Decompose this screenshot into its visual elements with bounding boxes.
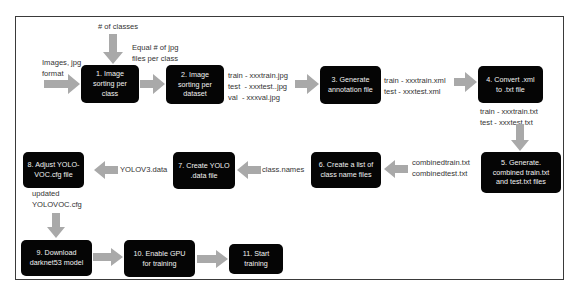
arrow-images-to-step1 [44,74,80,94]
step-5-box: 5. Generate. combined train.txt and test… [481,152,561,193]
step6-output-label: class.names [262,164,304,175]
arrow-classes-to-step1 [103,34,123,64]
arrow-step6-to-step7 [237,161,261,179]
step4-output-label: train - xxxtrain.txt test - xxxtest.txt [480,106,538,128]
arrow-step1-to-step2 [140,74,165,94]
step8-output-label: updated YOLOVOC.cfg [32,188,82,210]
step-10-box: 10. Enable GPU for training [124,240,195,277]
step2-output-label: train - xxxtrain.jpg test - xxxtest..jpg… [228,70,288,103]
arrow-step8-to-step9 [47,213,65,238]
step-9-box: 9. Download darknet53 model [21,240,92,276]
arrow-step3-to-step4 [454,72,477,92]
step-7-box: 7. Create YOLO .data file [173,152,235,189]
step-1-box: 1. Image sorting per class [81,65,139,103]
arrow-step2-to-step3 [295,74,319,94]
classes-input-label: # of classes [98,21,138,32]
step-11-box: 11. Start training [229,244,283,274]
step-2-box: 2. Image sorting per dataset [166,65,224,104]
step1-output-label: Equal # of jpg files per class [132,42,178,64]
step-6-box: 6. Create a list of class name files [311,152,381,188]
step7-output-label: YOLOV3.data [120,164,167,175]
arrow-step4-to-step5 [511,124,529,151]
arrow-step9-to-step10 [93,248,123,266]
step-4-box: 4. Convert .xml to .txt file [478,66,543,103]
step5-output-label: combinedtrain.txt combinedtest.txt [412,157,470,179]
arrow-step10-to-step11 [197,250,228,268]
step-8-box: 8. Adjust YOLO- VOC.cfg file [23,152,84,188]
arrow-step7-to-step8 [94,161,118,179]
diagram-frame [15,16,564,280]
step3-output-label: train - xxxtrain.xml test - xxxtest.xml [384,75,446,97]
step-3-box: 3. Generate annotation file [320,66,381,104]
arrow-step5-to-step6 [384,160,408,178]
